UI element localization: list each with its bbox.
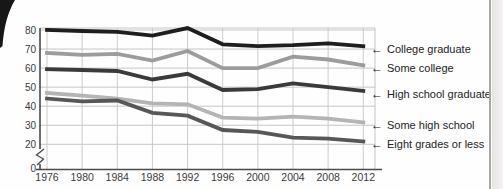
x-tick-label: 1996 <box>211 171 235 183</box>
y-tick-label: 80 <box>25 25 37 36</box>
page-edge-strip <box>492 0 503 189</box>
x-tick-label: 2004 <box>281 171 305 183</box>
y-tick-label: 20 <box>25 139 37 150</box>
x-tick-label: 1992 <box>176 171 200 183</box>
x-tick-label: 1984 <box>106 171 130 183</box>
series-line-some-college <box>47 51 363 68</box>
x-tick-label: 1976 <box>35 171 59 183</box>
x-tick-label: 1988 <box>141 171 165 183</box>
x-tick-label: 1980 <box>70 171 94 183</box>
scanned-chart-page: 2030405060708001976198019841988199219962… <box>0 0 503 189</box>
y-tick-label: 30 <box>25 120 37 131</box>
page-corner-artifact <box>0 0 26 48</box>
y-tick-label: 60 <box>25 63 37 74</box>
series-line-high-school-graduate <box>47 69 363 91</box>
page-edge-line <box>489 0 491 189</box>
y-tick-label: 40 <box>25 101 37 112</box>
y-tick-label: 70 <box>25 44 37 55</box>
line-chart: 2030405060708001976198019841988199219962… <box>0 0 503 189</box>
x-tick-label: 2012 <box>352 171 376 183</box>
axis-break-icon <box>37 149 45 165</box>
series-line-college-graduate <box>47 28 363 46</box>
x-tick-label: 2008 <box>316 171 340 183</box>
series-line-some-high-school <box>47 93 363 123</box>
y-tick-label: 50 <box>25 82 37 93</box>
series-line-eight-grades-or-less <box>47 99 363 142</box>
x-tick-label: 2000 <box>246 171 270 183</box>
